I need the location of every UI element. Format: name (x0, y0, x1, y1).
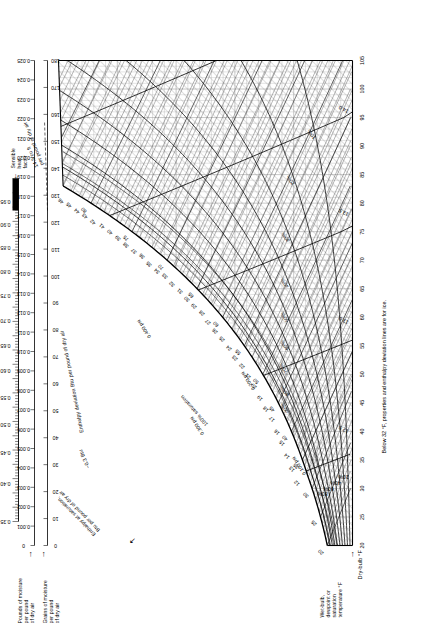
grains-tick: 90 (52, 300, 58, 306)
humidity-ratio-tick: 0.014 (17, 270, 30, 276)
db-tick: 55 (358, 342, 364, 348)
humidity-ratio-tick: 0.022 (17, 115, 30, 121)
shf-tick: 0.95 (0, 198, 10, 204)
db-tick: 25 (358, 513, 364, 519)
grains-axis-label-line: Grains of moisture (41, 580, 47, 623)
shf-tick: 0.35 (0, 518, 10, 524)
db-tick: 40 (358, 428, 364, 434)
humidity-ratio-tick: 0 (22, 542, 25, 548)
wetbulb-axis-label-line: dewpoint or (324, 582, 330, 617)
humidity-ratio-tick: 0.005 (17, 445, 30, 451)
grains-tick: 170 (51, 84, 60, 90)
db-tick: 30 (358, 485, 364, 491)
shf-tick: 0.60 (0, 367, 10, 373)
humidity-ratio-tick: 0.017 (17, 212, 30, 218)
grains-tick: 80 (52, 326, 58, 332)
db-tick: 50 (358, 371, 364, 377)
grains-tick: 150 (51, 138, 60, 144)
drybulb-arrow: → (347, 550, 355, 558)
humidity-ratio-tick: 0.006 (17, 426, 30, 432)
humidity-ratio-tick: 0.013 (17, 290, 30, 296)
rh-curve-label-low: 40% (330, 479, 340, 485)
wetbulb-axis-label-line: saturation (330, 582, 336, 617)
shf-tick: 0.70 (0, 317, 10, 323)
shf-tick: 0.65 (0, 342, 10, 348)
sensible-heat-factor-label-line: Sensible (9, 148, 15, 168)
humidity-ratio-tick: 0.002 (17, 503, 30, 509)
humidity-ratio-tick: 0.012 (17, 309, 30, 315)
enthalpy-saturation-arrow: ↖ (128, 536, 136, 543)
grains-tick: 0 (54, 542, 57, 548)
grains-tick: 50 (52, 407, 58, 413)
db-tick: 90 (358, 143, 364, 149)
grains-tick: 110 (51, 246, 59, 252)
sensible-heat-factor-arrow: ← (10, 172, 18, 180)
grains-axis-label-line: per pound (47, 580, 53, 623)
db-tick: 45 (358, 399, 364, 405)
humidity-ratio-tick: 0.008 (17, 387, 30, 393)
db-tick: 35 (358, 456, 364, 462)
db-tick: 100 (358, 84, 364, 93)
humidity-ratio-tick: 0.015 (17, 251, 30, 257)
db-tick: 70 (358, 257, 364, 263)
grains-tick: 60 (52, 380, 58, 386)
humidity-ratio-tick: 0.003 (17, 484, 30, 490)
wetbulb-axis-label: Wet-bulb,dewpoint orsaturationtemperatur… (318, 582, 342, 617)
grains-tick: 180 (51, 57, 60, 63)
grains-axis-label-line: of dry air (53, 580, 59, 623)
humidity-ratio-tick: 0.011 (17, 329, 29, 335)
humidity-ratio-tick: 0.024 (17, 76, 30, 82)
humidity-ratio-axis-label-line: of dry air (28, 577, 34, 623)
humidity-ratio-tick: 0.010 (17, 348, 30, 354)
db-tick: 105 (358, 56, 364, 65)
humidity-ratio-axis-label-line: per pound (22, 577, 28, 623)
grains-arrow: → (38, 550, 46, 558)
wetbulb-axis-label-line: temperature °F (336, 582, 342, 617)
humidity-ratio-tick: 0.018 (17, 193, 30, 199)
shf-tick: 0.90 (0, 221, 10, 227)
humidity-ratio-tick: 0.004 (17, 464, 30, 470)
shf-tick: 0.55 (0, 394, 10, 400)
humidity-ratio-tick: 0.023 (17, 96, 30, 102)
grains-tick: 160 (51, 111, 60, 117)
humidity-ratio-tick: 0.016 (17, 232, 30, 238)
humidity-ratio-axis-label-line: Pounds of moisture (16, 577, 22, 623)
humidity-ratio-tick: 0.025 (17, 57, 30, 63)
shf-tick: 0.45 (0, 449, 10, 455)
db-tick: 80 (358, 200, 364, 206)
humidity-ratio-axis-label: Pounds of moistureper poundof dry air (16, 577, 34, 623)
humidity-ratio-arrow: → (25, 550, 33, 558)
humidity-ratio-tick: 0.001 (17, 523, 30, 529)
db-tick: 75 (358, 228, 364, 234)
db-tick: 85 (358, 171, 364, 177)
shf-tick: 0.80 (0, 268, 10, 274)
footnote: Below 32 °F, properties and enthalpy dev… (380, 299, 386, 453)
grains-axis-label: Grains of moistureper poundof dry air (41, 580, 59, 623)
grains-tick: 120 (51, 219, 60, 225)
grains-tick: 40 (52, 434, 58, 440)
db-tick: 20 (358, 542, 364, 548)
grains-tick: 10 (52, 515, 58, 521)
shf-tick: 0.85 (0, 244, 10, 250)
rh-curve-label-low: 20% (338, 473, 348, 479)
humidity-ratio-tick: 0.019 (17, 173, 30, 179)
grains-tick: 140 (51, 165, 60, 171)
db-tick: 95 (358, 114, 364, 120)
rh-curve-label-low: 80% (317, 491, 327, 497)
grains-tick: 70 (52, 353, 58, 359)
grains-tick: 130 (51, 192, 60, 198)
humidity-ratio-tick: 0.009 (17, 367, 30, 373)
shf-tick: 0.40 (0, 480, 10, 486)
db-tick: 65 (358, 285, 364, 291)
shf-tick: 0.50 (0, 421, 10, 427)
grains-tick: 100 (51, 273, 60, 279)
wetbulb-axis-label-line: Wet-bulb, (318, 582, 324, 617)
sensible-heat-factor-label-line: heat (15, 148, 21, 168)
humidity-ratio-tick: 0.007 (17, 406, 30, 412)
db-tick: 60 (358, 314, 364, 320)
shf-tick: 0.75 (0, 292, 10, 298)
sensible-heat-factor-label: Sensibleheatfactor (9, 148, 27, 168)
grains-tick: 30 (52, 461, 58, 467)
